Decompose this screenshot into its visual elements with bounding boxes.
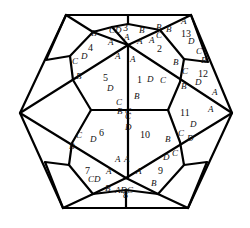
face-number-9: 9 [158,166,163,176]
face-number-11: 11 [180,108,190,118]
edge-left-upper [46,15,91,110]
vertex-label: C [156,31,162,40]
vertex-label: C [172,149,178,158]
vertex-label: D [188,37,195,46]
face-number-5: 5 [103,73,108,83]
vertex-label: A [106,167,112,176]
vertex-label: C [125,112,131,121]
vertex-label: A [181,17,187,26]
vertex-label: B [91,29,97,38]
vertex-label: A [124,33,130,42]
face-number-1: 1 [137,75,142,85]
vertex-label: B [166,25,172,34]
vertex-label: A [208,105,214,114]
vertex-label: B [117,107,123,116]
edge-left-lower [45,110,91,208]
vertex-label: C [76,131,82,140]
vertex-label: D [187,134,194,143]
vertex-label: B [134,92,140,101]
vertex-label: A [149,36,155,45]
face-number-4: 4 [88,43,93,53]
vertex-label: A [212,88,218,97]
vertex-label: D [190,120,197,129]
vertex-label: A [136,167,142,176]
face-number-6: 6 [99,128,104,138]
vertex-label: A [124,155,130,164]
vertex-label: A [137,37,143,46]
vertex-label: B [151,179,157,188]
face-number-2: 2 [157,44,162,54]
vertex-label: D [195,78,202,87]
vertex-label: A [130,55,136,64]
vertex-label: B [76,72,82,81]
vertex-label: CD [109,26,122,35]
vertex-label: D [107,84,114,93]
vertex-label: B [139,26,145,35]
vertex-label: B [69,142,75,151]
vertex-label: B [201,56,207,65]
vertex-label: D [81,52,88,61]
vertex-label: A [115,52,121,61]
vertex-label: B [173,58,179,67]
face-number-10: 10 [140,130,150,140]
vertex-label: ADC [115,186,133,195]
vertex-label: C [182,67,188,76]
vertex-label: D [125,123,132,132]
vertex-label: CD [88,175,101,184]
vertex-label: A [115,155,121,164]
vertex-label: B [181,82,187,91]
vertex-label: D [90,135,97,144]
vertex-label: C [160,76,166,85]
vertex-label: A [108,38,114,47]
vertex-label: C [178,129,184,138]
vertex-label: C [72,57,78,66]
vertex-label: D [163,153,170,162]
vertex-label: D [147,75,154,84]
vertex-label: B [165,135,171,144]
edge-right-lower [168,110,207,208]
vertex-label: B [105,184,111,193]
